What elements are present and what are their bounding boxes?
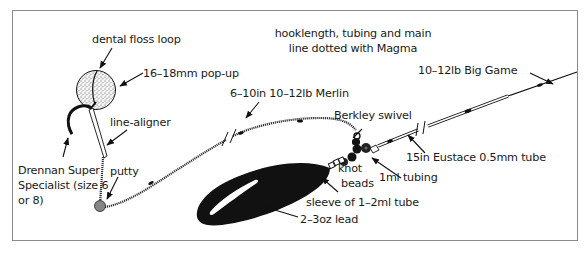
label-knot: knot: [338, 162, 362, 175]
label-hook-line3: or 8): [18, 194, 43, 207]
ml-tubing: [370, 145, 379, 153]
label-magma-line2: line dotted with Magma: [263, 42, 443, 55]
label-beads: beads: [341, 177, 374, 190]
label-magma-line1: hooklength, tubing and main: [263, 27, 443, 40]
label-line-aligner: line-aligner: [110, 116, 171, 129]
label-eustace-tube: 15in Eustace 0.5mm tube: [406, 151, 546, 164]
magma-dot: [537, 83, 544, 88]
putty: [95, 201, 106, 212]
label-big-game: 10–12lb Big Game: [418, 64, 517, 77]
label-putty: putty: [110, 165, 139, 178]
label-hook-line2: Specialist (size 6: [18, 179, 108, 192]
label-swivel: Berkley swivel: [334, 109, 412, 122]
label-dental-floss-loop: dental floss loop: [92, 33, 181, 46]
label-popup: 16–18mm pop-up: [143, 67, 239, 80]
magma-dot: [148, 180, 155, 186]
line-aligner: [89, 108, 107, 158]
label-lead: 2–3oz lead: [300, 213, 358, 226]
label-merlin: 6–10in 10–12lb Merlin: [230, 87, 349, 100]
magma-dot: [297, 120, 303, 123]
label-hook-line1: Drennan Super: [18, 164, 100, 177]
popup-bait: [77, 71, 116, 110]
label-sleeve: sleeve of 1–2ml tube: [306, 196, 419, 209]
line-break-mark: [222, 129, 236, 146]
magma-dot: [238, 131, 245, 136]
label-ml-tubing: 1ml tubing: [379, 171, 438, 184]
